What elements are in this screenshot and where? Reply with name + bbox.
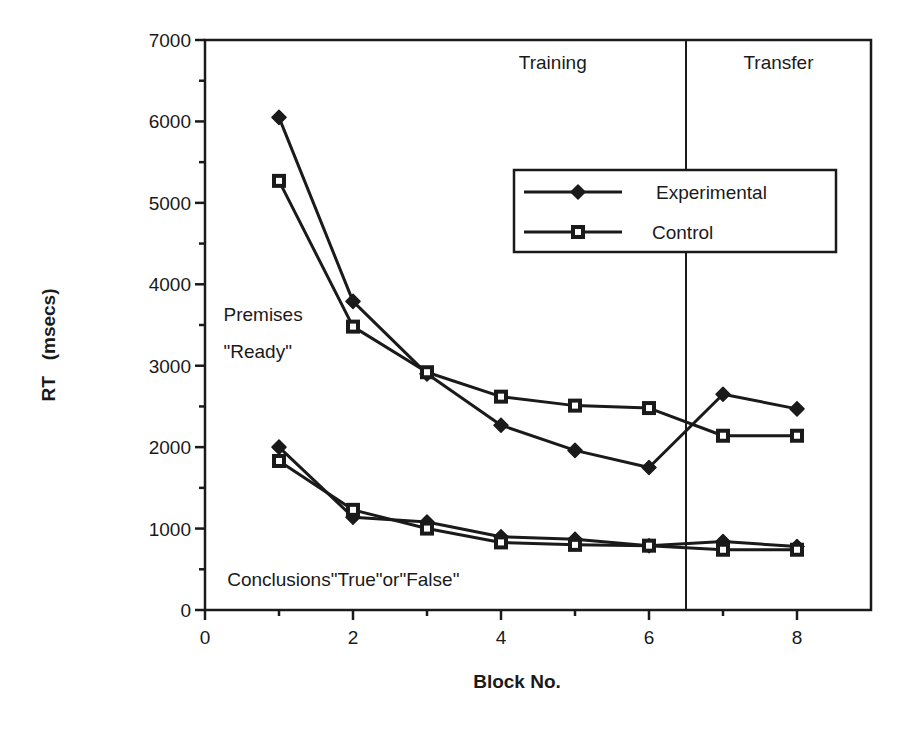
region-label: Training — [519, 52, 587, 73]
diamond-marker — [790, 402, 804, 416]
square-marker-hole — [498, 394, 504, 400]
x-tick-label: 2 — [348, 627, 359, 648]
square-marker-hole — [575, 229, 581, 235]
y-axis: 01000200030004000500060007000 — [149, 30, 205, 621]
series-experimental — [272, 110, 804, 474]
y-tick-label: 1000 — [149, 519, 191, 540]
line-chart: 01000200030004000500060007000 02468 Trai… — [0, 0, 904, 753]
square-marker-hole — [572, 542, 578, 548]
square-marker-hole — [572, 403, 578, 409]
y-tick-label: 0 — [180, 600, 191, 621]
annotation-text: Premises — [224, 304, 303, 325]
y-tick-label: 6000 — [149, 111, 191, 132]
square-marker-hole — [350, 507, 356, 513]
x-axis: 02468 — [200, 610, 803, 648]
x-axis-title: Block No. — [473, 671, 561, 692]
y-tick-label: 2000 — [149, 437, 191, 458]
annotation-text: "Ready" — [224, 341, 292, 362]
legend-label: Experimental — [656, 182, 767, 203]
annotations: TrainingTransferPremises"Ready"Conclusio… — [224, 52, 815, 590]
square-marker-hole — [276, 178, 282, 184]
square-marker-hole — [720, 547, 726, 553]
series-experimental — [272, 440, 804, 553]
legend-label: Control — [652, 222, 713, 243]
y-tick-label: 5000 — [149, 193, 191, 214]
square-marker-hole — [794, 433, 800, 439]
square-marker-hole — [276, 458, 282, 464]
square-marker-hole — [424, 526, 430, 532]
x-tick-label: 8 — [792, 627, 803, 648]
square-marker-hole — [424, 369, 430, 375]
square-marker-hole — [350, 324, 356, 330]
y-tick-label: 7000 — [149, 30, 191, 51]
diamond-marker — [568, 443, 582, 457]
square-marker-hole — [794, 547, 800, 553]
plot-border — [205, 40, 871, 610]
series-line — [279, 447, 797, 546]
square-marker-hole — [720, 433, 726, 439]
legend: ExperimentalControl — [514, 170, 836, 252]
x-tick-label: 4 — [496, 627, 507, 648]
y-axis-title: RT (msecs) — [38, 289, 59, 402]
square-marker-hole — [498, 539, 504, 545]
annotation-text: Conclusions"True"or"False" — [227, 569, 459, 590]
plot-frame — [205, 40, 871, 610]
square-marker-hole — [646, 405, 652, 411]
x-tick-label: 6 — [644, 627, 655, 648]
y-tick-label: 3000 — [149, 356, 191, 377]
x-tick-label: 0 — [200, 627, 211, 648]
region-label: Transfer — [743, 52, 814, 73]
square-marker-hole — [646, 543, 652, 549]
diamond-marker — [272, 110, 286, 124]
y-tick-label: 4000 — [149, 274, 191, 295]
